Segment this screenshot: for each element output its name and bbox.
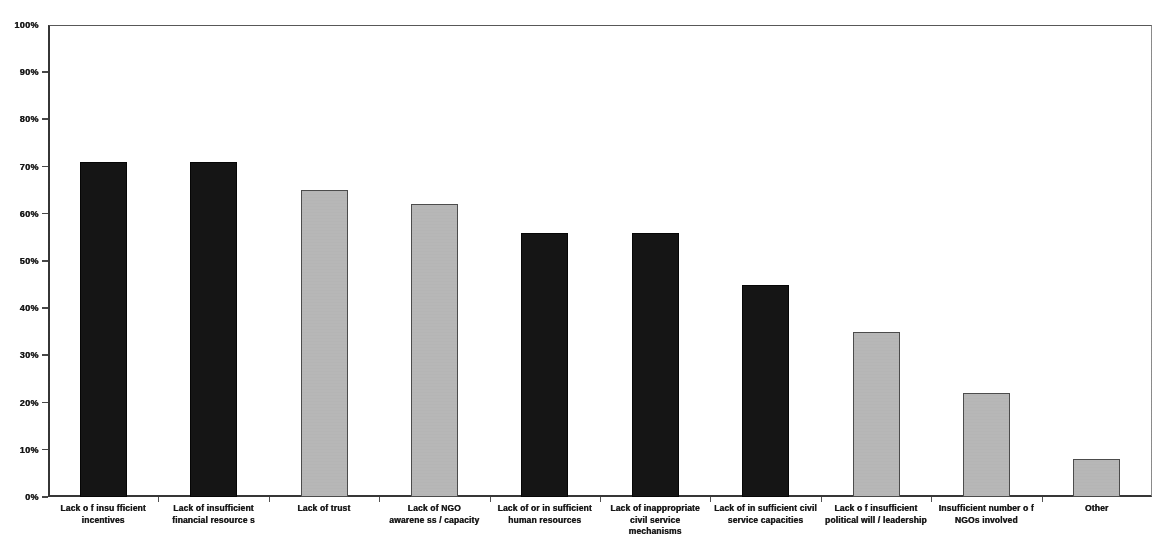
bar — [521, 233, 568, 497]
y-axis-tick: 0% — [0, 490, 48, 504]
x-axis-category-label-line: Lack of NGO — [379, 503, 489, 515]
y-axis-tick: 40% — [0, 301, 48, 315]
x-axis-category-label-line: Lack o f insufficient — [821, 503, 931, 515]
y-axis-tick-label: 100% — [14, 18, 39, 32]
bar — [301, 190, 348, 497]
x-axis-category-label-line: Lack o f insu fficient — [48, 503, 158, 515]
bar — [1073, 459, 1120, 497]
bars-layer — [48, 25, 1152, 497]
x-axis-category-label-line: Lack of trust — [269, 503, 379, 515]
x-axis-category-label-line: political will / leadership — [821, 515, 931, 527]
x-axis-category-label-line: Other — [1042, 503, 1152, 515]
bar — [80, 162, 127, 497]
x-axis-category-label: Other — [1042, 503, 1152, 515]
y-axis-tick: 30% — [0, 348, 48, 362]
x-axis-labels: Lack o f insu fficientincentivesLack of … — [48, 503, 1152, 555]
x-axis-category-label: Lack of or in sufficienthuman resources — [490, 503, 600, 526]
x-axis-tick-mark — [600, 497, 601, 502]
y-axis-tick: 70% — [0, 160, 48, 174]
x-axis-tick-mark — [931, 497, 932, 502]
x-axis-category-label-line: awarene ss / capacity — [379, 515, 489, 527]
y-axis-tick-label: 20% — [20, 396, 39, 410]
x-axis-category-label-line: Lack of inappropriate — [600, 503, 710, 515]
bar — [853, 332, 900, 497]
y-axis-tick: 10% — [0, 443, 48, 457]
x-axis-category-label-line: human resources — [490, 515, 600, 527]
x-axis-category-label-line: Insufficient number o f — [931, 503, 1041, 515]
bar — [411, 204, 458, 497]
y-axis-tick: 20% — [0, 396, 48, 410]
bar — [190, 162, 237, 497]
y-axis-tick: 50% — [0, 254, 48, 268]
y-axis-tick-label: 30% — [20, 348, 39, 362]
y-axis-tick: 80% — [0, 112, 48, 126]
x-axis-category-label-line: Lack of insufficient — [158, 503, 268, 515]
x-axis-category-label: Lack o f insufficientpolitical will / le… — [821, 503, 931, 526]
x-axis-category-label: Lack of trust — [269, 503, 379, 515]
bar — [963, 393, 1010, 497]
x-axis-tick-mark — [490, 497, 491, 502]
y-axis-tick-label: 70% — [20, 160, 39, 174]
x-axis-tick-mark — [1042, 497, 1043, 502]
x-axis-category-label-line: incentives — [48, 515, 158, 527]
y-axis-tick: 100% — [0, 18, 48, 32]
x-axis-category-label: Insufficient number o fNGOs involved — [931, 503, 1041, 526]
x-axis-category-label: Lack of inappropriatecivil servicemechan… — [600, 503, 710, 538]
y-axis-tick-label: 10% — [20, 443, 39, 457]
x-axis-category-label: Lack o f insu fficientincentives — [48, 503, 158, 526]
y-axis-tick: 60% — [0, 207, 48, 221]
y-axis-tick-label: 90% — [20, 65, 39, 79]
x-axis-category-label-line: service capacities — [710, 515, 820, 527]
x-axis-category-label-line: NGOs involved — [931, 515, 1041, 527]
x-axis-category-label-line: Lack of in sufficient civil — [710, 503, 820, 515]
y-axis-tick-label: 60% — [20, 207, 39, 221]
bar — [632, 233, 679, 497]
y-axis-tick-label: 80% — [20, 112, 39, 126]
x-axis-category-label-line: Lack of or in sufficient — [490, 503, 600, 515]
y-axis: 100%90%80%70%60%50%40%30%20%10%0% — [0, 0, 48, 555]
y-axis-tick-label: 0% — [25, 490, 39, 504]
bar-chart: 100%90%80%70%60%50%40%30%20%10%0% Lack o… — [0, 0, 1156, 555]
x-axis-tick-mark — [158, 497, 159, 502]
y-axis-tick-label: 40% — [20, 301, 39, 315]
x-axis-category-label-line: civil service — [600, 515, 710, 527]
x-axis-tick-mark — [269, 497, 270, 502]
bar — [742, 285, 789, 497]
x-axis-category-label-line: financial resource s — [158, 515, 268, 527]
x-axis-category-label-line: mechanisms — [600, 526, 710, 538]
y-axis-tick-label: 50% — [20, 254, 39, 268]
x-axis-tick-mark — [821, 497, 822, 502]
y-axis-tick: 90% — [0, 65, 48, 79]
x-axis-category-label: Lack of insufficientfinancial resource s — [158, 503, 268, 526]
x-axis-tick-mark — [710, 497, 711, 502]
x-axis-category-label: Lack of in sufficient civilservice capac… — [710, 503, 820, 526]
x-axis-category-label: Lack of NGOawarene ss / capacity — [379, 503, 489, 526]
x-axis-tick-mark — [379, 497, 380, 502]
